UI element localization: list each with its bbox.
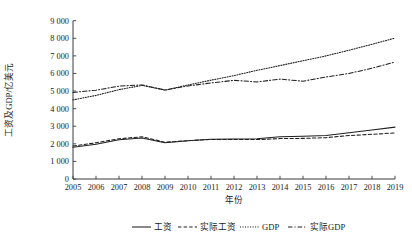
x-tick-label: 2005 <box>65 183 82 192</box>
x-tick-label: 2010 <box>180 183 197 192</box>
series-line-实际GDP <box>73 62 395 92</box>
legend-label-工资: 工资 <box>154 222 172 232</box>
y-tick-label: 8 000 <box>50 34 69 43</box>
y-tick-label: 1 000 <box>50 157 69 166</box>
legend-label-实际工资: 实际工资 <box>200 221 236 232</box>
x-tick-label: 2015 <box>295 183 312 192</box>
y-tick-label: 3 000 <box>50 122 69 131</box>
x-tick-label: 2008 <box>134 183 151 192</box>
x-axis-tick-labels: 2005200620072008200920102011201220132014… <box>65 183 404 192</box>
chart-axes-path <box>73 21 395 179</box>
series-line-GDP <box>73 38 395 100</box>
x-tick-label: 2011 <box>203 183 219 192</box>
x-tick-label: 2017 <box>341 183 358 192</box>
series-line-工资 <box>73 127 395 147</box>
x-tick-label: 2018 <box>364 183 381 192</box>
y-tick-label: 9 000 <box>50 17 69 26</box>
x-tick-label: 2014 <box>272 183 289 192</box>
data-series-group <box>73 38 395 147</box>
y-tick-label: 2 000 <box>50 140 69 149</box>
legend-label-GDP: GDP <box>262 222 279 232</box>
x-tick-label: 2009 <box>157 183 174 192</box>
axis-tick-marks <box>73 21 395 179</box>
y-axis-title: 工资及GDP/亿美元 <box>3 63 14 137</box>
chart-canvas: 01 0002 0003 0004 0005 0006 0007 0008 00… <box>0 0 412 246</box>
x-axis-title: 年份 <box>225 194 243 205</box>
x-tick-label: 2006 <box>88 183 105 192</box>
x-tick-label: 2016 <box>318 183 335 192</box>
y-tick-label: 5 000 <box>50 87 69 96</box>
x-tick-label: 2013 <box>249 183 266 192</box>
line-chart: 01 0002 0003 0004 0005 0006 0007 0008 00… <box>0 0 412 246</box>
y-axis-tick-labels: 01 0002 0003 0004 0005 0006 0007 0008 00… <box>50 17 69 184</box>
x-tick-label: 2007 <box>111 183 128 192</box>
legend-label-实际GDP: 实际GDP <box>310 221 345 232</box>
x-tick-label: 2012 <box>226 183 243 192</box>
y-tick-label: 6 000 <box>50 69 69 78</box>
chart-legend: 工资实际工资GDP实际GDP <box>132 221 345 232</box>
x-tick-label: 2019 <box>387 183 404 192</box>
y-tick-label: 4 000 <box>50 105 69 114</box>
y-tick-label: 7 000 <box>50 52 69 61</box>
axis-lines <box>73 21 395 179</box>
